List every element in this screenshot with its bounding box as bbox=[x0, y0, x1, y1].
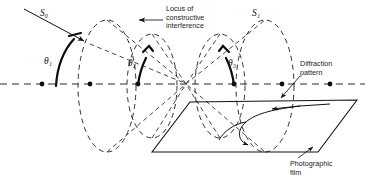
diffracted-beam: S₁ bbox=[252, 8, 260, 18]
angle-2-label: θ₂ bbox=[128, 58, 137, 68]
angle-1-label: θ₁ bbox=[44, 56, 52, 66]
incident-beam-label: S₀ bbox=[40, 8, 48, 18]
scatterer-dot bbox=[280, 82, 285, 87]
angle-3-label: θ₃ bbox=[228, 58, 236, 68]
diffracted-beam-label: S₁ bbox=[252, 8, 260, 18]
diffraction-label-line2: pattern bbox=[300, 68, 322, 77]
diffraction-figure: S₀ S₁ θ₁ θ₂ θ₃ Locus of constructive in bbox=[0, 0, 365, 184]
diffraction-label-line1: Diffraction bbox=[300, 59, 332, 68]
scatterer-dot bbox=[328, 82, 333, 87]
film-label-line1: Photographic bbox=[290, 159, 333, 168]
scatterer-dot bbox=[88, 82, 93, 87]
film-label-line2: film bbox=[290, 168, 301, 177]
scatterer-dot bbox=[40, 82, 45, 87]
locus-label-line3: interference bbox=[166, 21, 204, 30]
